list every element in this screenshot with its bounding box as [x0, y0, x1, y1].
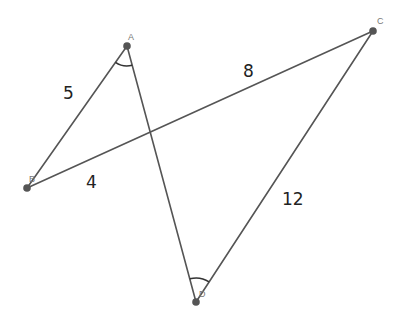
label-c: C [377, 16, 384, 26]
point-d[interactable] [192, 298, 200, 306]
point-a[interactable] [123, 42, 131, 50]
point-b[interactable] [23, 184, 31, 192]
angle-arc-a [116, 62, 133, 66]
label-b: B [29, 174, 35, 184]
measurement-ab: 5 [63, 83, 74, 103]
segment-ab [27, 46, 127, 188]
segment-ad [127, 46, 196, 302]
point-c[interactable] [369, 27, 377, 35]
label-d: D [199, 289, 206, 299]
geometry-diagram: A B C D 5 8 4 12 [0, 0, 403, 330]
label-a: A [128, 32, 134, 42]
angle-arc-d [190, 278, 209, 282]
measurement-bc-upper: 8 [243, 61, 254, 81]
measurement-bc-lower: 4 [86, 172, 97, 192]
measurement-cd: 12 [282, 189, 304, 209]
